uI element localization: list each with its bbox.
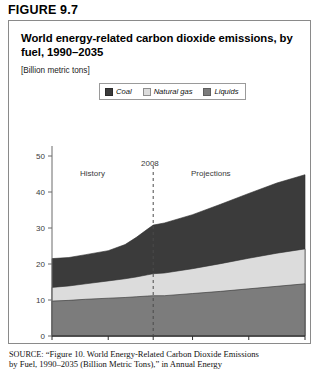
- svg-text:2008: 2008: [144, 343, 162, 345]
- figure-page: FIGURE 9.7 World energy-related carbon d…: [0, 0, 320, 369]
- figure-title: World energy-related carbon dioxide emis…: [21, 31, 300, 59]
- svg-text:2025: 2025: [240, 343, 258, 345]
- legend-item-liquids: Liquids: [203, 87, 238, 96]
- svg-text:2000: 2000: [99, 343, 117, 345]
- figure-units: [Billion metric tons]: [21, 66, 90, 75]
- legend-item-coal: Coal: [105, 87, 132, 96]
- svg-text:10: 10: [36, 296, 45, 305]
- figure-number: FIGURE 9.7: [8, 3, 78, 17]
- svg-text:50: 50: [36, 152, 45, 161]
- source-line-2: by Fuel, 1990–2035 (Billion Metric Tons)…: [9, 360, 316, 369]
- legend-item-natural-gas: Natural gas: [143, 87, 193, 96]
- svg-text:2035: 2035: [296, 343, 312, 345]
- annotation-divider-year: 2008: [141, 159, 159, 168]
- svg-text:2015: 2015: [184, 343, 202, 345]
- svg-text:20: 20: [36, 260, 45, 269]
- source-prefix: SOURCE:: [9, 350, 44, 359]
- chart-legend: Coal Natural gas Liquids: [99, 83, 246, 100]
- legend-label-natural-gas: Natural gas: [154, 87, 193, 96]
- annotation-history: History: [80, 169, 105, 178]
- annotation-projections: Projections: [191, 169, 231, 178]
- svg-text:40: 40: [36, 188, 45, 197]
- source-line-1: “Figure 10. World Energy-Related Carbon …: [46, 349, 259, 359]
- legend-label-coal: Coal: [116, 87, 132, 96]
- svg-text:30: 30: [36, 224, 45, 233]
- svg-text:1990: 1990: [43, 343, 61, 345]
- legend-label-liquids: Liquids: [214, 87, 238, 96]
- figure-box: World energy-related carbon dioxide emis…: [8, 20, 311, 344]
- legend-swatch-icon-liquids: [203, 88, 211, 96]
- source-note: SOURCE: “Figure 10. World Energy-Related…: [9, 350, 316, 369]
- legend-swatch-icon-coal: [105, 88, 113, 96]
- svg-text:0: 0: [41, 332, 46, 341]
- legend-swatch-icon-natural-gas: [143, 88, 151, 96]
